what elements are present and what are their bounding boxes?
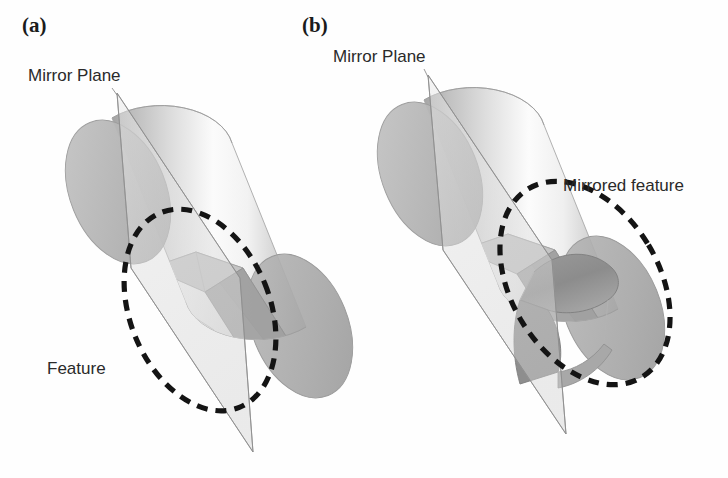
panel-a-feature-label: Feature [47,359,106,378]
panel-b-tag: (b) [302,13,328,37]
panel-a: (a) Mirror Plane Feature [22,13,373,452]
panel-a-mirror-plane-leader [112,88,117,95]
panel-b-mirror-plane-label: Mirror Plane [333,47,426,66]
panel-b-mirror-plane-leader [424,69,428,77]
panel-a-tag: (a) [22,13,47,37]
panel-a-mirror-plane-label: Mirror Plane [28,66,121,85]
figure-canvas: (a) Mirror Plane Feature [0,0,728,478]
panel-b-mirrored-feature-label: Mirrored feature [563,176,684,195]
panel-b: (b) Mirror Plane Mirrored feature [302,13,705,434]
figure-root: (a) Mirror Plane Feature [0,0,728,478]
